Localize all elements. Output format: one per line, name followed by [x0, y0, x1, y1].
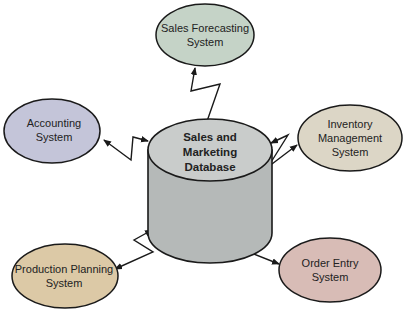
- label-line: System: [318, 145, 382, 159]
- label-line: System: [161, 35, 249, 49]
- label-production-planning: Production Planning System: [15, 262, 113, 290]
- label-line: Management: [318, 131, 382, 145]
- label-line: Order Entry: [302, 256, 359, 270]
- connector-accounting: [104, 137, 148, 160]
- label-line: Database: [183, 160, 237, 175]
- label-accounting: Accounting System: [27, 116, 81, 144]
- label-line: System: [15, 276, 113, 290]
- label-line: System: [27, 130, 81, 144]
- label-line: Sales Forecasting: [161, 21, 249, 35]
- connector-sales-forecasting: [191, 68, 220, 127]
- label-inventory: Inventory Management System: [318, 117, 382, 159]
- label-line: Sales and: [183, 130, 237, 145]
- label-line: Production Planning: [15, 262, 113, 276]
- label-line: Inventory: [318, 117, 382, 131]
- label-line: Accounting: [27, 116, 81, 130]
- label-line: System: [302, 270, 359, 284]
- connector-production-planning: [115, 230, 153, 269]
- label-database: Sales and Marketing Database: [183, 130, 237, 175]
- label-order-entry: Order Entry System: [302, 256, 359, 284]
- label-sales-forecasting: Sales Forecasting System: [161, 21, 249, 49]
- label-line: Marketing: [183, 145, 237, 160]
